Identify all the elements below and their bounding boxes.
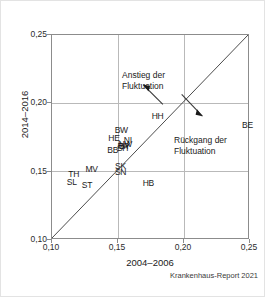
annotation-decrease-line2: Fluktuation: [174, 146, 216, 156]
data-point-label-be: BE: [242, 120, 253, 130]
annotation-increase-line2: Fluktuation: [122, 81, 164, 91]
x-tickmark-0: [51, 239, 52, 243]
x-axis-label: 2004–2006: [51, 257, 249, 268]
annotation-decrease: Rückgang der Fluktuation: [174, 135, 244, 157]
data-point-label-hh: HH: [152, 111, 164, 121]
data-point-label-hb: HB: [143, 178, 154, 188]
data-point-label-sh: SH: [117, 143, 128, 153]
annotation-increase-line1: Anstieg der: [122, 70, 165, 80]
chart-figure: 0,25 0,20 0,15 0,10 0,10 0,15 0,20 0,25: [9, 9, 258, 290]
source-caption: Krankenhaus-Report 2021: [170, 271, 258, 280]
x-tickmark-3: [249, 239, 250, 243]
data-point-label-sl: SL: [67, 177, 77, 187]
data-point-label-bb: BB: [107, 145, 118, 155]
x-tick-label-3: 0,25: [241, 242, 258, 252]
data-point-label-st: ST: [82, 180, 92, 190]
y-tick-label-3: 0,25: [17, 29, 47, 39]
y-axis-label: 2014–2016: [19, 70, 30, 160]
y-tick-label-1: 0,15: [17, 166, 47, 176]
data-point-label-sn: SN: [115, 167, 126, 177]
x-tickmark-2: [183, 239, 184, 243]
annotation-increase: Anstieg der Fluktuation: [122, 70, 188, 92]
x-tickmark-1: [117, 239, 118, 243]
x-tick-label-1: 0,15: [109, 242, 126, 252]
annotation-decrease-line1: Rückgang der: [174, 135, 227, 145]
plot-area: Anstieg der Fluktuation Rückgang der Flu…: [51, 34, 249, 239]
figure-frame: 0,25 0,20 0,15 0,10 0,10 0,15 0,20 0,25: [0, 0, 265, 297]
x-tick-label-2: 0,20: [175, 242, 192, 252]
data-point-label-mv: MV: [85, 164, 97, 174]
x-tick-label-0: 0,10: [43, 242, 60, 252]
